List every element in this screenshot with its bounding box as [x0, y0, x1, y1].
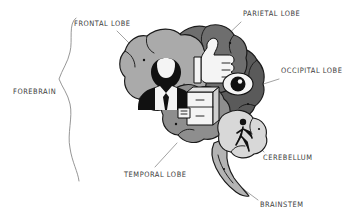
label-occipital-lobe: OCCIPITAL LOBE [281, 66, 342, 75]
label-cerebellum: CEREBELLUM [263, 153, 313, 162]
cerebellum-dot [258, 128, 260, 130]
leader-temporal [155, 143, 177, 167]
brain-diagram: FOREBRAIN FRONTAL LOBE PARIETAL LOBE OCC… [0, 0, 343, 212]
brain-diagram-svg: FOREBRAIN FRONTAL LOBE PARIETAL LOBE OCC… [0, 0, 343, 212]
label-brainstem: BRAINSTEM [260, 200, 304, 209]
temporal-dot [175, 123, 177, 125]
frontal-dot [143, 59, 145, 61]
parietal-dot [229, 42, 231, 44]
occipital-dot [247, 103, 249, 105]
label-frontal-lobe: FRONTAL LOBE [74, 19, 131, 28]
forebrain-bracket [59, 18, 79, 181]
label-forebrain: FOREBRAIN [13, 87, 56, 96]
label-temporal-lobe: TEMPORAL LOBE [123, 170, 187, 179]
brainstem-dot [223, 168, 225, 170]
cerebellum-shape [218, 110, 267, 158]
eye-icon [223, 73, 253, 95]
label-parietal-lobe: PARIETAL LOBE [243, 9, 300, 18]
